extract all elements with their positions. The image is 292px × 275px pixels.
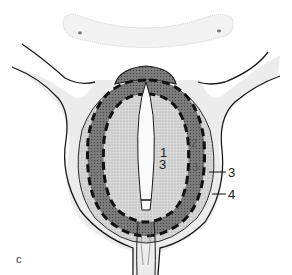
panel-letter: c: [16, 254, 22, 265]
label-ring-2: 2: [191, 138, 197, 149]
label-ring-3: 3: [192, 162, 198, 173]
anatomical-diagram: 1 3 2 3 3 4 c: [0, 0, 292, 275]
label-right-4: 4: [228, 188, 235, 201]
label-right-3: 3: [228, 166, 235, 179]
label-center-3: 3: [159, 158, 166, 171]
cross-section-illustration: [0, 0, 292, 275]
